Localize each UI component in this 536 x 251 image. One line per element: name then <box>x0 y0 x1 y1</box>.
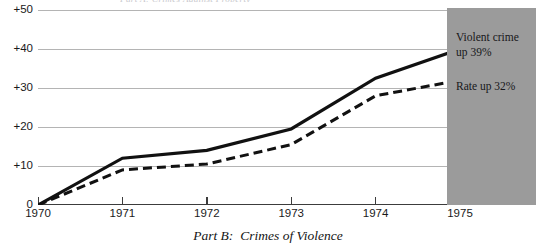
x-axis-tick-label: 1973 <box>278 208 304 220</box>
annotation-violent-crime: Violent crime up 39% <box>456 30 536 60</box>
plot-svg <box>38 10 460 205</box>
y-axis-tick-label: +10 <box>13 160 33 172</box>
annotation-line: up 39% <box>456 45 536 60</box>
x-axis-tick-label: 1975 <box>447 208 473 220</box>
annotation-line: Rate up 32% <box>456 79 536 94</box>
annotation-rate: Rate up 32% <box>456 79 536 94</box>
chart-figure: Part A: Crimes Against Property 0+10+20+… <box>0 0 536 251</box>
y-axis-tick-label: +50 <box>13 4 33 16</box>
figure-caption: Part B:Crimes of Violence <box>0 228 536 244</box>
x-axis-tick-label: 1974 <box>363 208 389 220</box>
annotation-line: Violent crime <box>456 30 536 45</box>
x-axis-labels: 197019711972197319741975 <box>0 208 536 228</box>
caption-text: Crimes of Violence <box>240 228 342 243</box>
gridlines <box>38 10 460 166</box>
plot-area <box>38 10 460 205</box>
series-line-dashed <box>38 80 460 205</box>
x-axis-tick-label: 1970 <box>25 208 51 220</box>
y-axis-tick-label: +20 <box>13 121 33 133</box>
annotation-panel: Violent crime up 39% Rate up 32% <box>447 8 536 205</box>
caption-label: Part B: <box>193 228 233 243</box>
y-axis-tick-label: +40 <box>13 43 33 55</box>
y-axis-tick-label: +30 <box>13 82 33 94</box>
clipped-title-fragment: Part A: Crimes Against Property <box>120 0 420 2</box>
x-axis-tick-label: 1972 <box>194 208 220 220</box>
x-axis-tick-label: 1971 <box>110 208 136 220</box>
axis-lines <box>38 197 460 205</box>
